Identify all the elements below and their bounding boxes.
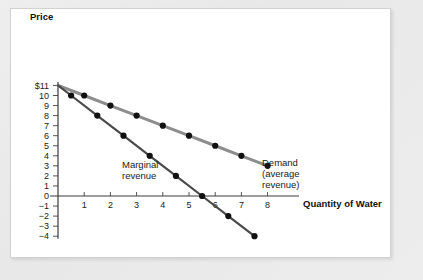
x-axis-tick-label: 1: [82, 200, 87, 210]
x-axis-tick-label: 5: [186, 200, 191, 210]
demand-label-line1: Demand: [262, 157, 298, 168]
y-axis-tick-label: −1: [39, 201, 49, 211]
demand-data-point: [81, 92, 87, 98]
y-axis-tick-label: 6: [44, 131, 49, 141]
demand-data-point: [238, 153, 244, 159]
marginal-revenue-label-line2: revenue: [122, 170, 156, 181]
x-axis-tick-label: 8: [265, 200, 270, 210]
demand-data-point: [186, 133, 192, 139]
demand-data-point: [134, 113, 140, 119]
x-axis-tick-label: 3: [134, 200, 139, 210]
marginal-revenue-data-point: [199, 193, 205, 199]
x-axis-tick-label: 4: [160, 200, 165, 210]
y-axis-tick-label: 7: [44, 121, 49, 131]
y-axis-tick-label: −4: [39, 231, 49, 241]
y-axis-tick-label: 2: [44, 171, 49, 181]
y-axis-tick-label: 5: [44, 141, 49, 151]
y-axis-tick-label: −3: [39, 221, 49, 231]
marginal-revenue-data-point: [225, 213, 231, 219]
y-axis-tick-label: 10: [39, 91, 49, 101]
y-axis-tick-label: 8: [44, 111, 49, 121]
demand-data-point: [160, 123, 166, 129]
y-axis-tick-label: $11: [35, 81, 49, 91]
x-axis-tick-label: 7: [239, 200, 244, 210]
y-axis-tick-label: 3: [44, 161, 49, 171]
x-axis-tick-label: 2: [108, 200, 113, 210]
demand-data-point: [212, 143, 218, 149]
marginal-revenue-data-point: [68, 92, 74, 98]
demand-data-point: [107, 102, 113, 108]
y-axis-tick-label: 0: [44, 191, 49, 201]
y-axis-tick-label: 1: [44, 181, 49, 191]
y-axis-title: Price: [30, 11, 53, 22]
demand-label-line2: (average: [262, 168, 300, 179]
y-axis-tick-label: −2: [39, 211, 49, 221]
marginal-revenue-label-line1: Marginal: [122, 159, 158, 170]
marginal-revenue-data-point: [251, 233, 257, 239]
marginal-revenue-data-point: [94, 113, 100, 119]
demand-label-line3: revenue): [262, 179, 300, 190]
y-axis-tick-label: 9: [44, 101, 49, 111]
chart-svg: $11109876543210−1−2−3−4 12345678 Price Q…: [0, 0, 423, 280]
marginal-revenue-data-point: [147, 153, 153, 159]
marginal-revenue-data-point: [173, 173, 179, 179]
x-axis-ticks: 12345678: [82, 192, 270, 210]
y-axis-ticks: $11109876543210−1−2−3−4: [35, 81, 58, 242]
price-quantity-chart: $11109876543210−1−2−3−4 12345678 Price Q…: [0, 0, 423, 280]
y-axis-tick-label: 4: [44, 151, 49, 161]
marginal-revenue-data-point: [120, 133, 126, 139]
x-axis-title: Quantity of Water: [303, 198, 382, 209]
